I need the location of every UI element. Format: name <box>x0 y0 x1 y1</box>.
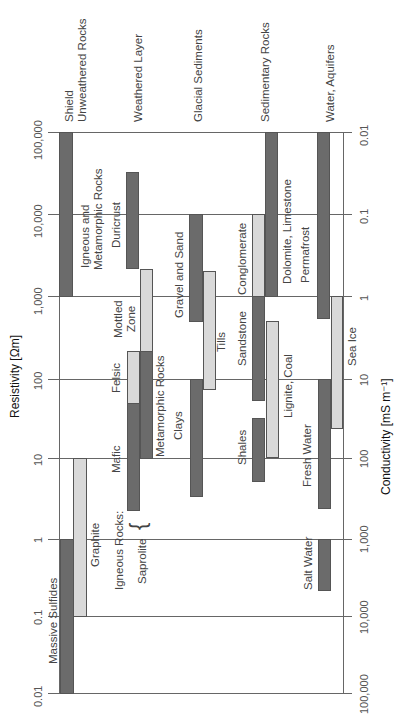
cond-tick-0.01: 0.01 <box>359 125 370 146</box>
bar-clays <box>190 379 203 497</box>
bar-gravel-sand <box>189 214 203 322</box>
res-tick-10000: 10,000 <box>33 204 44 238</box>
bar-fresh-water <box>318 379 331 509</box>
bar-salt-water <box>318 539 331 591</box>
bar-felsic <box>127 351 140 404</box>
bar-massive-sulfides <box>60 539 74 694</box>
bar-dolomite-limestone <box>265 132 278 297</box>
label-felsic: Felsic <box>111 363 123 393</box>
cond-tick-0.1: 0.1 <box>359 209 370 224</box>
label-lignite-coal: Lignite, Coal <box>283 354 295 418</box>
brace-icon: { <box>127 523 149 530</box>
cond-tick-1000: 1,000 <box>359 525 370 553</box>
res-tick-0.1: 0.1 <box>33 610 44 625</box>
label-mottled: Mottled <box>113 300 125 338</box>
bar-sandstone <box>252 296 265 401</box>
label-sandstone: Sandstone <box>237 311 249 366</box>
resistivity-axis-title: Resistivity [Ωm] <box>9 335 21 418</box>
group-label-unweathered: Unweathered Rocks <box>77 18 89 122</box>
conductivity-axis-title: Conductivity [mS m⁻¹] <box>380 378 392 495</box>
bar-metamorphic-saprolite <box>140 351 153 459</box>
cond-tick-10: 10 <box>359 374 370 386</box>
cond-tick-1: 1 <box>359 295 370 301</box>
bar-igneous-metamorphic <box>59 132 73 297</box>
label-shales: Shales <box>237 430 249 465</box>
label-dolomite-limestone: Dolomite, Limestone <box>282 179 294 284</box>
group-label-sedimentary: Sedimentary Rocks <box>260 22 272 122</box>
group-label-weathered: Weathered Layer <box>133 34 145 122</box>
bar-tills <box>203 271 216 390</box>
bar-graphite <box>73 458 87 617</box>
res-tick-100000: 100,000 <box>33 120 44 160</box>
bar-lignite-coal <box>266 321 279 458</box>
bar-permafrost <box>317 132 330 319</box>
label-clays: Clays <box>173 411 185 440</box>
label-igneous-1: Igneous and <box>80 205 92 268</box>
gridline-100000 <box>48 132 352 133</box>
label-metamorphic: Metamorphic Rocks <box>155 355 167 457</box>
group-label-glacial: Glacial Sediments <box>193 29 205 122</box>
label-igneous-rocks: Igneous Rocks: <box>114 511 126 590</box>
label-mafic: Mafic <box>111 446 123 473</box>
res-tick-10: 10 <box>33 454 44 466</box>
cond-tick-10000: 10,000 <box>359 600 370 634</box>
label-duricrust: Duricrust <box>111 202 123 248</box>
gridline-0.1 <box>48 616 352 617</box>
bar-duricrust <box>126 172 139 269</box>
label-tills: Tills <box>216 332 228 352</box>
right-axis-line <box>343 132 344 694</box>
label-massive-sulfides: Massive Sulfides <box>48 578 60 664</box>
label-salt-water: Salt Water <box>303 537 315 590</box>
bar-shales <box>252 418 265 482</box>
res-tick-100: 100 <box>33 372 44 390</box>
bar-sea-ice <box>331 296 343 429</box>
label-zone: Zone <box>126 306 138 332</box>
label-conglomerate: Conglomerate <box>237 223 249 295</box>
label-sea-ice: Sea Ice <box>347 327 359 366</box>
group-label-shield: Shield <box>64 90 76 122</box>
cond-tick-100000: 100,000 <box>359 674 370 714</box>
res-tick-1000: 1,000 <box>33 287 44 315</box>
label-permafrost: Permafrost <box>300 227 312 283</box>
label-saprolite: Saprolite <box>137 539 149 584</box>
label-graphite: Graphite <box>90 523 102 567</box>
bar-mafic <box>127 403 140 511</box>
resistivity-conductivity-chart: 100,000 10,000 1,000 100 10 1 0.1 0.01 0… <box>0 0 396 726</box>
bar-conglomerate <box>252 214 265 297</box>
res-tick-0.01: 0.01 <box>33 686 44 707</box>
res-tick-1: 1 <box>33 537 44 543</box>
label-igneous-2: Metamorphic Rocks <box>93 168 105 270</box>
label-gravel-sand: Gravel and Sand <box>174 232 186 318</box>
label-fresh-water: Fresh Water <box>302 424 314 487</box>
cond-tick-100: 100 <box>359 450 370 468</box>
gridline-0.01 <box>48 693 352 694</box>
group-label-water: Water, Aquifers <box>325 44 337 122</box>
bar-mottled-zone <box>140 269 153 353</box>
